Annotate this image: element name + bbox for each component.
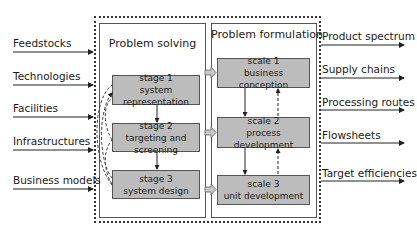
input-arrows <box>13 52 93 189</box>
feedback-dashed-curves <box>97 85 112 185</box>
transfer-arrows <box>205 67 216 195</box>
output-arrows <box>321 45 404 181</box>
